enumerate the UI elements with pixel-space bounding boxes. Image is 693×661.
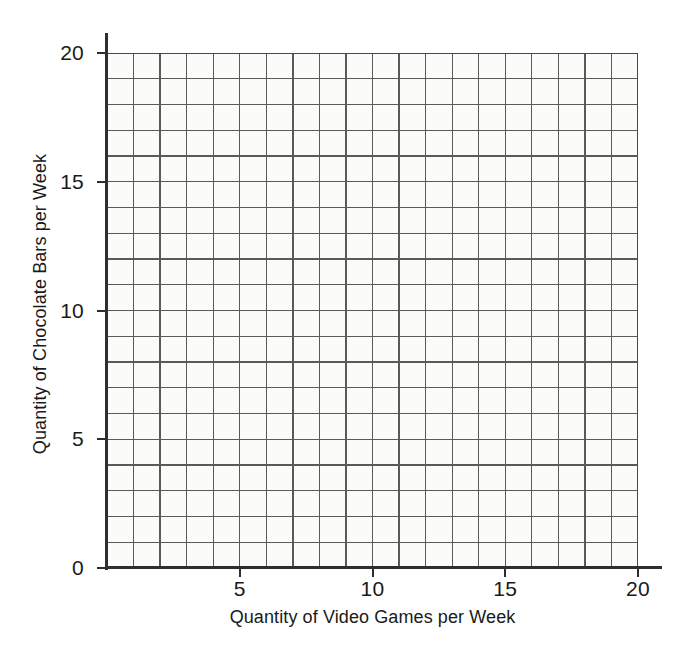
x-axis-title: Quantity of Video Games per Week [107,606,638,628]
y-axis-line [105,33,108,570]
y-tick-mark-5 [97,438,106,440]
y-tick-mark-20 [97,52,106,54]
x-tick-mark-10 [372,569,374,577]
x-axis-line [105,566,662,569]
grid-lines [107,53,638,568]
x-tick-mark-20 [637,569,639,577]
y-tick-mark-15 [97,181,106,183]
y-axis-title: Quantity of Chocolate Bars per Week [27,47,53,562]
y-tick-mark-10 [97,310,106,312]
x-tick-label-5: 5 [210,578,270,599]
y-tick-mark-0 [97,567,106,569]
x-tick-mark-5 [239,569,241,577]
plot-area [107,53,638,568]
chart-page: 20151050 5101520 Quantity of Video Games… [0,0,693,661]
x-tick-label-10: 10 [343,578,403,599]
x-tick-mark-15 [504,569,506,577]
y-axis-title-wrapper: Quantity of Chocolate Bars per Week [27,47,53,562]
x-tick-label-20: 20 [608,578,668,599]
x-tick-label-15: 15 [475,578,535,599]
